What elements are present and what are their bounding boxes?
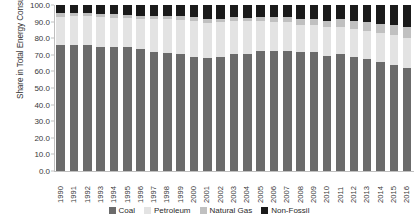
- bar-segment-petroleum[interactable]: [363, 31, 372, 59]
- bar-segment-coal[interactable]: [403, 68, 412, 171]
- bar-segment-non-fossil[interactable]: [403, 5, 412, 27]
- stacked-bar[interactable]: [270, 5, 279, 171]
- bar-segment-natural-gas[interactable]: [376, 24, 385, 33]
- stacked-bar[interactable]: [136, 5, 145, 171]
- bar-segment-coal[interactable]: [96, 47, 105, 171]
- stacked-bar[interactable]: [403, 5, 412, 171]
- legend-item-natural-gas[interactable]: Natural Gas: [200, 206, 253, 215]
- bar-segment-non-fossil[interactable]: [310, 5, 319, 19]
- bar-segment-non-fossil[interactable]: [336, 5, 345, 19]
- bar-segment-coal[interactable]: [136, 49, 145, 171]
- bar-segment-petroleum[interactable]: [56, 17, 65, 45]
- legend-item-petroleum[interactable]: Petroleum: [144, 206, 190, 215]
- bar-segment-non-fossil[interactable]: [323, 5, 332, 21]
- bar-segment-non-fossil[interactable]: [390, 5, 399, 25]
- bar-segment-natural-gas[interactable]: [390, 25, 399, 35]
- bar-segment-non-fossil[interactable]: [136, 5, 145, 16]
- stacked-bar[interactable]: [96, 5, 105, 171]
- stacked-bar[interactable]: [230, 5, 239, 171]
- bar-segment-non-fossil[interactable]: [83, 5, 92, 13]
- stacked-bar[interactable]: [243, 5, 252, 171]
- bar-segment-petroleum[interactable]: [323, 27, 332, 56]
- stacked-bar[interactable]: [336, 5, 345, 171]
- bar-segment-coal[interactable]: [230, 54, 239, 171]
- bar-segment-non-fossil[interactable]: [350, 5, 359, 21]
- stacked-bar[interactable]: [390, 5, 399, 171]
- bar-segment-coal[interactable]: [216, 57, 225, 171]
- bar-segment-non-fossil[interactable]: [163, 5, 172, 16]
- bar-segment-petroleum[interactable]: [230, 21, 239, 54]
- stacked-bar[interactable]: [83, 5, 92, 171]
- stacked-bar[interactable]: [283, 5, 292, 171]
- stacked-bar[interactable]: [323, 5, 332, 171]
- bar-segment-coal[interactable]: [190, 57, 199, 171]
- stacked-bar[interactable]: [216, 5, 225, 171]
- bar-segment-petroleum[interactable]: [123, 18, 132, 47]
- bar-segment-petroleum[interactable]: [150, 19, 159, 53]
- bar-segment-non-fossil[interactable]: [296, 5, 305, 19]
- stacked-bar[interactable]: [123, 5, 132, 171]
- bar-segment-non-fossil[interactable]: [376, 5, 385, 24]
- bar-segment-non-fossil[interactable]: [283, 5, 292, 17]
- bar-segment-petroleum[interactable]: [256, 21, 265, 51]
- stacked-bar[interactable]: [350, 5, 359, 171]
- bar-segment-coal[interactable]: [256, 51, 265, 171]
- bar-segment-coal[interactable]: [390, 65, 399, 171]
- bar-segment-natural-gas[interactable]: [403, 27, 412, 38]
- stacked-bar[interactable]: [110, 5, 119, 171]
- bar-segment-petroleum[interactable]: [390, 35, 399, 65]
- bar-segment-non-fossil[interactable]: [270, 5, 279, 17]
- bar-segment-coal[interactable]: [296, 52, 305, 171]
- bar-segment-coal[interactable]: [176, 54, 185, 171]
- bar-segment-non-fossil[interactable]: [190, 5, 199, 17]
- bar-segment-non-fossil[interactable]: [243, 5, 252, 18]
- bar-segment-coal[interactable]: [203, 58, 212, 171]
- stacked-bar[interactable]: [376, 5, 385, 171]
- stacked-bar[interactable]: [203, 5, 212, 171]
- bar-segment-coal[interactable]: [243, 54, 252, 171]
- bar-segment-petroleum[interactable]: [203, 23, 212, 58]
- stacked-bar[interactable]: [70, 5, 79, 171]
- bar-segment-non-fossil[interactable]: [230, 5, 239, 17]
- bar-segment-coal[interactable]: [56, 45, 65, 171]
- bar-segment-petroleum[interactable]: [83, 16, 92, 45]
- bar-segment-coal[interactable]: [323, 56, 332, 171]
- stacked-bar[interactable]: [310, 5, 319, 171]
- bar-segment-non-fossil[interactable]: [56, 5, 65, 13]
- bar-segment-petroleum[interactable]: [216, 22, 225, 57]
- stacked-bar[interactable]: [190, 5, 199, 171]
- bar-segment-petroleum[interactable]: [163, 19, 172, 54]
- bar-segment-coal[interactable]: [270, 51, 279, 171]
- bar-segment-non-fossil[interactable]: [256, 5, 265, 17]
- bar-segment-coal[interactable]: [350, 57, 359, 171]
- bar-segment-petroleum[interactable]: [283, 22, 292, 50]
- legend-item-coal[interactable]: Coal: [109, 206, 135, 215]
- bar-segment-coal[interactable]: [363, 59, 372, 171]
- bar-segment-coal[interactable]: [310, 52, 319, 171]
- bar-segment-petroleum[interactable]: [136, 19, 145, 49]
- stacked-bar[interactable]: [163, 5, 172, 171]
- bar-segment-non-fossil[interactable]: [216, 5, 225, 19]
- bar-segment-coal[interactable]: [123, 47, 132, 171]
- stacked-bar[interactable]: [296, 5, 305, 171]
- bar-segment-coal[interactable]: [376, 62, 385, 171]
- bar-segment-petroleum[interactable]: [70, 16, 79, 44]
- stacked-bar[interactable]: [256, 5, 265, 171]
- bar-segment-petroleum[interactable]: [376, 33, 385, 62]
- bar-segment-petroleum[interactable]: [243, 21, 252, 54]
- bar-segment-petroleum[interactable]: [296, 25, 305, 53]
- bar-segment-petroleum[interactable]: [350, 29, 359, 57]
- bar-segment-non-fossil[interactable]: [123, 5, 132, 15]
- bar-segment-petroleum[interactable]: [190, 21, 199, 58]
- bar-segment-petroleum[interactable]: [336, 27, 345, 55]
- bar-segment-natural-gas[interactable]: [363, 22, 372, 31]
- legend-item-non-fossil[interactable]: Non-Fossil: [261, 206, 309, 215]
- bar-segment-non-fossil[interactable]: [363, 5, 372, 22]
- bar-segment-non-fossil[interactable]: [150, 5, 159, 16]
- bar-segment-non-fossil[interactable]: [110, 5, 119, 14]
- bar-segment-non-fossil[interactable]: [176, 5, 185, 16]
- bar-segment-coal[interactable]: [163, 53, 172, 171]
- stacked-bar[interactable]: [176, 5, 185, 171]
- bar-segment-non-fossil[interactable]: [96, 5, 105, 14]
- bar-segment-petroleum[interactable]: [96, 17, 105, 47]
